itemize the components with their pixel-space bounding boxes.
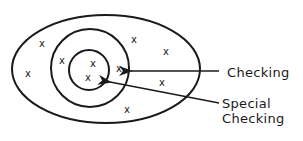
x-marker-icon: x: [39, 38, 45, 49]
x-marker-icon: x: [163, 46, 169, 57]
x-marker-icon: x: [116, 63, 122, 74]
special-checking-label-line2: Checking: [222, 111, 285, 126]
x-marker-icon: x: [124, 104, 130, 115]
x-marker-icon: x: [131, 34, 137, 45]
x-marker-icon: x: [85, 72, 91, 83]
special-checking-label-line1: Special: [222, 96, 271, 111]
x-marker-icon: x: [90, 58, 96, 69]
x-marker-icon: x: [59, 55, 65, 66]
x-marker-icon: x: [25, 68, 31, 79]
checking-label: Checking: [227, 65, 290, 80]
element-markers: xxxxxxxxxx: [25, 34, 169, 115]
x-marker-icon: x: [159, 77, 165, 88]
outer-set-ellipse: [12, 15, 200, 123]
special-checking-set-circle: [69, 50, 109, 90]
